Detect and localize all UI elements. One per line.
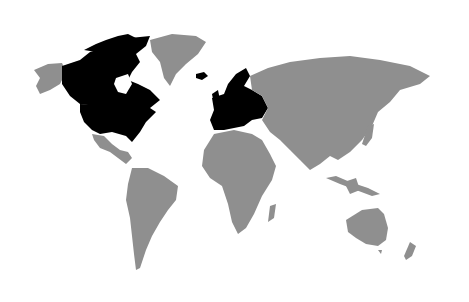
- region-alaska: [34, 63, 66, 94]
- region-new-zealand: [404, 242, 416, 260]
- region-australia: [346, 208, 388, 246]
- region-borneo: [344, 178, 360, 194]
- region-mexico: [92, 134, 132, 164]
- region-africa: [202, 130, 276, 234]
- region-russia-asia: [250, 56, 430, 170]
- world-map-svg: [0, 0, 469, 302]
- world-map: [0, 0, 469, 302]
- region-south-america: [126, 168, 178, 270]
- region-iceland[interactable]: [196, 72, 208, 80]
- region-madagascar: [268, 204, 276, 222]
- region-tasmania: [378, 250, 382, 254]
- region-usa[interactable]: [80, 104, 156, 142]
